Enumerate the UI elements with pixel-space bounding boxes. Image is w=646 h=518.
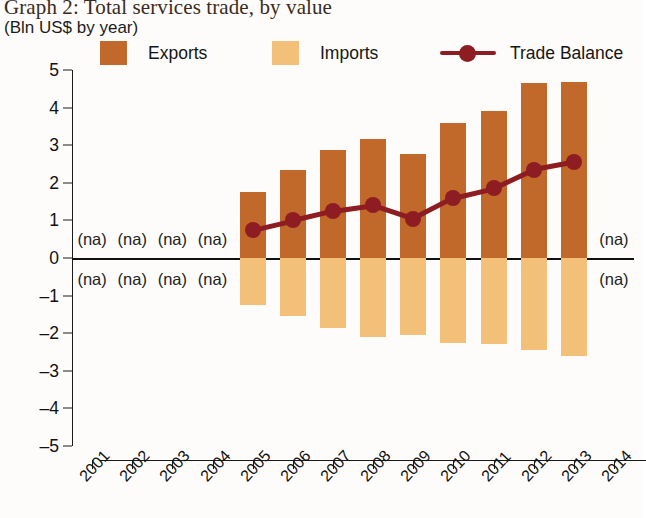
page-title: Graph 2: Total services trade, by value <box>4 0 332 20</box>
x-tick-label: 2012 <box>518 447 555 485</box>
x-tick-label: 2008 <box>357 447 394 485</box>
y-tick-mark <box>63 370 72 371</box>
zero-baseline <box>72 258 634 260</box>
chart-subtitle: (Bln US$ by year) <box>4 18 138 38</box>
y-tick-label: –2 <box>25 323 59 344</box>
export-bar <box>561 82 587 258</box>
y-tick-mark <box>63 295 72 296</box>
import-bar <box>280 258 306 316</box>
import-bar <box>481 258 507 344</box>
na-label: (na) <box>118 230 147 249</box>
import-bar <box>320 258 346 328</box>
na-label: (na) <box>158 270 187 289</box>
na-label: (na) <box>77 230 106 249</box>
x-tick-label: 2014 <box>598 447 635 485</box>
y-tick-label: 3 <box>25 135 59 156</box>
y-tick-mark <box>63 446 72 447</box>
legend-trade-balance-label: Trade Balance <box>510 43 623 64</box>
export-bar <box>521 83 547 258</box>
export-bar <box>320 150 346 258</box>
legend-imports-swatch-icon <box>272 41 299 65</box>
y-tick-label: –1 <box>25 285 59 306</box>
y-tick-label: 5 <box>25 60 59 81</box>
x-tick-label: 2007 <box>317 447 354 485</box>
y-tick-mark <box>63 408 72 409</box>
legend-trade-balance: Trade Balance <box>440 40 623 66</box>
x-tick-label: 2003 <box>156 447 193 485</box>
y-tick-label: 0 <box>25 248 59 269</box>
y-tick-label: –5 <box>25 436 59 457</box>
y-tick-label: 1 <box>25 210 59 231</box>
import-bar <box>561 258 587 356</box>
x-tick-label: 2004 <box>197 447 234 485</box>
export-bar <box>481 111 507 258</box>
x-tick-label: 2011 <box>478 448 515 485</box>
import-bar <box>440 258 466 343</box>
x-tick-label: 2010 <box>437 447 474 485</box>
y-tick-mark <box>63 258 72 259</box>
x-tick-label: 2005 <box>237 447 274 485</box>
export-bar <box>360 139 386 258</box>
x-tick-label: 2006 <box>277 447 314 485</box>
na-label: (na) <box>198 230 227 249</box>
y-tick-mark <box>63 107 72 108</box>
na-label: (na) <box>599 270 628 289</box>
x-tick-label: 2013 <box>558 447 595 485</box>
export-bar <box>240 192 266 258</box>
na-label: (na) <box>198 270 227 289</box>
export-bar <box>440 123 466 258</box>
legend-exports-label: Exports <box>148 43 207 64</box>
legend-imports: Imports <box>272 40 378 66</box>
x-tick-label: 2009 <box>397 447 434 485</box>
na-label: (na) <box>158 230 187 249</box>
x-tick-label: 2001 <box>76 447 113 485</box>
legend-imports-label: Imports <box>320 43 378 64</box>
y-tick-mark <box>63 182 72 183</box>
na-label: (na) <box>599 230 628 249</box>
y-tick-label: 4 <box>25 97 59 118</box>
export-bar <box>280 170 306 258</box>
y-tick-mark <box>63 220 72 221</box>
legend-exports-swatch-icon <box>100 41 127 65</box>
export-bar <box>400 154 426 258</box>
y-tick-label: 2 <box>25 172 59 193</box>
chart-legend: ExportsImportsTrade Balance <box>100 40 640 66</box>
import-bar <box>521 258 547 350</box>
y-tick-label: –3 <box>25 360 59 381</box>
y-tick-mark <box>63 333 72 334</box>
import-bar <box>360 258 386 337</box>
y-tick-mark <box>63 70 72 71</box>
y-tick-mark <box>63 145 72 146</box>
y-tick-label: –4 <box>25 398 59 419</box>
x-tick-label: 2002 <box>116 447 153 485</box>
na-label: (na) <box>118 270 147 289</box>
na-label: (na) <box>77 270 106 289</box>
legend-trade-balance-line-icon <box>440 41 496 65</box>
legend-exports: Exports <box>100 40 207 66</box>
import-bar <box>240 258 266 305</box>
import-bar <box>400 258 426 335</box>
